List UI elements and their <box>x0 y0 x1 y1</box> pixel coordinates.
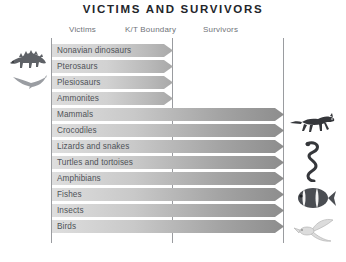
column-header-survivors: Survivors <box>203 25 238 34</box>
chart-row: Lizards and snakes <box>52 139 284 155</box>
chart-row: Turtles and tortoises <box>52 155 284 171</box>
clownfish-illustration <box>290 183 336 213</box>
row-label: Plesiosaurs <box>57 75 100 91</box>
row-label: Insects <box>57 203 84 219</box>
row-arrow-survivor <box>52 204 284 217</box>
chart-row: Insects <box>52 203 284 219</box>
row-label: Lizards and snakes <box>57 139 129 155</box>
row-label: Fishes <box>57 187 82 203</box>
victims-and-survivors-chart: VICTIMS AND SURVIVORS Victims K/T Bounda… <box>0 0 346 262</box>
row-label: Mammals <box>57 107 93 123</box>
row-label: Amphibians <box>57 171 101 187</box>
chart-row: Plesiosaurs <box>52 75 284 91</box>
chart-row: Ammonites <box>52 91 284 107</box>
row-label: Pterosaurs <box>57 59 98 75</box>
mammal-illustration <box>288 112 340 138</box>
page-title: VICTIMS AND SURVIVORS <box>0 3 346 15</box>
chart-row: Amphibians <box>52 171 284 187</box>
row-label: Turtles and tortoises <box>57 155 133 171</box>
column-header-kt-boundary: K/T Boundary <box>125 25 176 34</box>
column-header-victims: Victims <box>69 25 96 34</box>
ankylosaur-illustration <box>8 48 48 72</box>
chart-row: Birds <box>52 219 284 235</box>
row-label: Birds <box>57 219 76 235</box>
chart-row: Pterosaurs <box>52 59 284 75</box>
chart-row: Crocodiles <box>52 123 284 139</box>
row-arrow-survivor <box>52 188 284 201</box>
chart-row: Mammals <box>52 107 284 123</box>
chart-row: Nonavian dinosaurs <box>52 43 284 59</box>
chart-rows: Nonavian dinosaursPterosaursPlesiosaursA… <box>52 43 284 235</box>
chart-row: Fishes <box>52 187 284 203</box>
row-label: Crocodiles <box>57 123 97 139</box>
row-label: Nonavian dinosaurs <box>57 43 131 59</box>
snake-illustration <box>298 140 328 182</box>
bird-illustration <box>292 215 336 245</box>
row-label: Ammonites <box>57 91 99 107</box>
row-arrow-survivor <box>52 220 284 233</box>
pterosaur-illustration <box>12 72 48 92</box>
